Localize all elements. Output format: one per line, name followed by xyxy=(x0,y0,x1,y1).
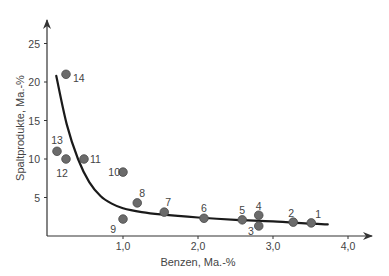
data-point xyxy=(80,155,89,164)
trend-curve xyxy=(56,76,328,225)
y-axis-label: Spaltprodukte, Ma.-% xyxy=(14,75,26,181)
y-axis: 510152025 xyxy=(28,20,47,236)
data-point xyxy=(53,147,62,156)
data-point xyxy=(62,155,71,164)
data-point xyxy=(307,219,316,228)
point-label: 4 xyxy=(256,200,262,212)
point-label: 12 xyxy=(56,167,68,179)
point-label: 8 xyxy=(139,187,145,199)
point-label: 3 xyxy=(248,225,254,237)
point-label: 7 xyxy=(165,196,171,208)
data-point xyxy=(254,211,263,220)
data-point xyxy=(119,215,128,224)
x-axis: 1,02,03,04,0 xyxy=(47,236,372,252)
y-tick-label: 5 xyxy=(34,192,40,204)
trend-line xyxy=(56,76,328,225)
data-point xyxy=(254,222,263,231)
x-axis-label: Benzen, Ma.-% xyxy=(160,256,235,268)
data-point xyxy=(133,199,142,208)
y-tick-label: 20 xyxy=(28,76,40,88)
point-label: 14 xyxy=(73,72,85,84)
point-label: 5 xyxy=(239,204,245,216)
data-points: 1234567891011121314 xyxy=(51,70,321,237)
data-point xyxy=(62,70,71,79)
x-tick-label: 3,0 xyxy=(266,240,281,252)
point-label: 10 xyxy=(108,166,120,178)
point-label: 6 xyxy=(201,202,207,214)
y-tick-label: 25 xyxy=(28,38,40,50)
data-point xyxy=(238,216,247,225)
scatter-chart: 510152025 1,02,03,04,0 Spaltprodukte, Ma… xyxy=(0,0,389,276)
data-point xyxy=(160,208,169,217)
y-tick-label: 10 xyxy=(28,153,40,165)
point-label: 1 xyxy=(315,208,321,220)
x-tick-label: 4,0 xyxy=(341,240,356,252)
point-label: 2 xyxy=(288,207,294,219)
data-point xyxy=(200,214,209,223)
x-tick-label: 2,0 xyxy=(191,240,206,252)
point-label: 9 xyxy=(110,223,116,235)
data-point xyxy=(289,218,298,227)
point-label: 11 xyxy=(90,153,101,165)
y-tick-label: 15 xyxy=(28,115,40,127)
x-tick-label: 1,0 xyxy=(116,240,131,252)
point-label: 13 xyxy=(51,134,63,146)
